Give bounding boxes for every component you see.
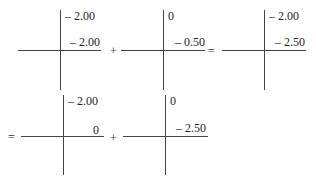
cross-2-vertical-axis [163,10,164,90]
cross-3-top-label: – 2.00 [269,10,299,22]
cross-2-top-label: 0 [168,10,174,22]
equals-operator: = [208,45,215,57]
cross-5-right-label: – 2.50 [176,122,206,134]
cross-3-right-label: – 2.50 [275,36,305,48]
cross-2-right-label: – 0.50 [175,36,205,48]
cross-4-top-label: – 2.00 [68,95,98,107]
cross-1-right-label: – 2.00 [70,36,100,48]
equals-operator-row2: = [8,131,15,143]
cross-3-vertical-axis [264,10,265,90]
cross-5-top-label: 0 [170,95,176,107]
plus-operator: + [110,45,117,57]
plus-operator-row2: + [110,132,117,144]
cross-1-top-label: – 2.00 [65,10,95,22]
cross-4-vertical-axis [63,95,64,175]
cross-4-right-label: 0 [93,124,99,136]
cross-1-vertical-axis [60,10,61,90]
cross-5-vertical-axis [165,95,166,175]
